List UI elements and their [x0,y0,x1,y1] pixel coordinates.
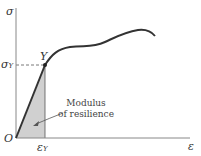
stress-strain-curve [45,30,155,65]
yield-stress-symbol: σ [1,58,9,71]
yield-point-marker [43,63,47,67]
yield-stress-subscript: Y [9,62,14,70]
yield-strain-subscript: Y [43,145,48,153]
annotation-line-2: of resilience [58,109,114,120]
modulus-of-resilience-annotation: Modulus of resilience [58,98,114,120]
x-axis-label: ε [188,141,194,152]
yield-point-label: Y [40,51,47,62]
stress-strain-diagram [0,0,201,156]
y-axis-label: σ [6,6,14,17]
origin-label: O [4,133,13,144]
annotation-line-1: Modulus [58,98,114,109]
yield-strain-label: εY [37,142,48,153]
yield-stress-label: σY [1,59,13,70]
